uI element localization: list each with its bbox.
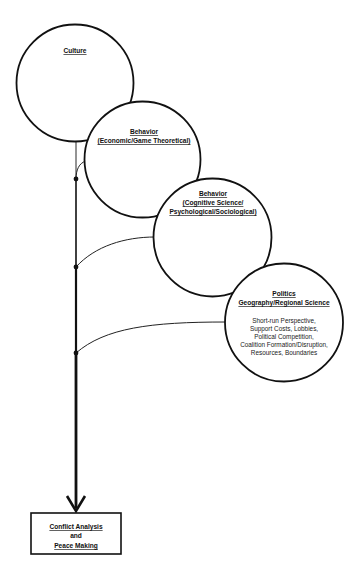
politics-body-line: Coalition Formation/Disruption, [240, 341, 328, 349]
behavior-economic-title: Behavior [130, 128, 159, 135]
connector-politics [76, 322, 226, 353]
target-line-1: Conflict Analysis [49, 523, 103, 531]
junction-dot-1 [74, 177, 79, 182]
politics-title: Politics [272, 290, 296, 297]
politics-body-line: Support Costs, Lobbies, [250, 325, 318, 333]
politics-body-line: Political Competition, [254, 333, 314, 341]
politics-body-line: Resources, Boundaries [251, 349, 317, 356]
junction-dot-2 [74, 265, 79, 270]
behavior-cognitive-title: Behavior [199, 190, 228, 197]
politics-body-line: Short-run Perspective, [252, 317, 316, 325]
conflict-diagram: Culture Behavior (Economic/Game Theoreti… [0, 0, 358, 579]
target-line-3: Peace Making [54, 542, 98, 550]
behavior-cognitive-subtitle-2: Psychological/Sociological) [169, 208, 256, 216]
behavior-economic-subtitle: (Economic/Game Theoretical) [97, 137, 190, 145]
target-line-2: and [70, 532, 82, 539]
politics-subtitle: Geography/Regional Science [238, 299, 330, 307]
junction-dot-3 [74, 351, 79, 356]
culture-title: Culture [63, 47, 86, 54]
behavior-cognitive-subtitle-1: (Cognitive Science/ [183, 199, 244, 207]
target-conflict-analysis: Conflict Analysis and Peace Making [31, 513, 121, 554]
connector-behavior-cognitive [76, 237, 155, 267]
node-politics: Politics Geography/Regional Science Shor… [225, 264, 343, 382]
